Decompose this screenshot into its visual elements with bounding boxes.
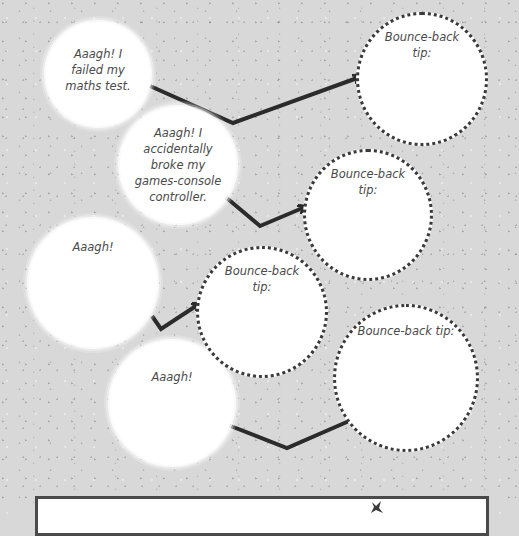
arrow-icon (228, 418, 356, 448)
problem-circle-2: Aaagh! I accidentally broke my games-con… (120, 107, 236, 223)
problem-text: Aaagh! (129, 369, 216, 385)
tip-label: Bounce-back tip: (356, 323, 457, 339)
arrow-icon (222, 194, 305, 226)
problem-text: Aaagh! I accidentally broke my games-con… (129, 125, 226, 205)
problem-text: Aaagh! (48, 239, 138, 255)
problem-circle-3: Aaagh! (29, 219, 157, 347)
tip-label: Bounce-back tip: (377, 29, 468, 61)
star-icon (370, 500, 384, 514)
tip-circle-2[interactable]: Bounce-back tip: (303, 149, 433, 281)
problem-circle-1: Aaagh! I failed my maths test. (46, 22, 150, 126)
tip-circle-3[interactable]: Bounce-back tip: (196, 246, 328, 378)
tip-circle-1[interactable]: Bounce-back tip: (356, 12, 488, 146)
arrow-icon (152, 304, 199, 329)
problem-text: Aaagh! I failed my maths test. (62, 46, 135, 94)
tip-label: Bounce-back tip: (217, 263, 308, 295)
bottom-note-box (35, 496, 489, 536)
tip-label: Bounce-back tip: (323, 166, 412, 198)
tip-circle-4[interactable]: Bounce-back tip: (333, 304, 479, 452)
